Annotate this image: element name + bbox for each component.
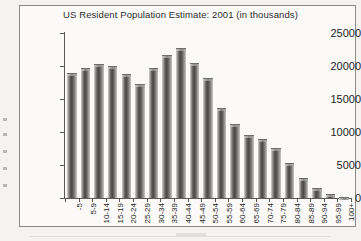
- bar-slot: [244, 33, 254, 198]
- x-axis-tick-label: 15-19: [116, 203, 125, 223]
- bar: [108, 66, 118, 198]
- x-axis-tick: [174, 198, 175, 202]
- x-axis-tick: [269, 198, 270, 202]
- x-axis-tick-label: 25-29: [143, 203, 152, 223]
- bar: [176, 48, 186, 198]
- bar-slot: [108, 33, 118, 198]
- bar-slot: [149, 33, 159, 198]
- bar: [285, 163, 295, 198]
- bar: [326, 194, 336, 198]
- x-axis-tick: [256, 198, 257, 202]
- bar: [312, 188, 322, 198]
- x-axis-tick-label: 20-24: [129, 203, 138, 223]
- bar-slot: [162, 33, 172, 198]
- x-axis-tick: [351, 198, 352, 202]
- bar-slot: [122, 33, 132, 198]
- x-axis-tick-label: 55-59: [225, 203, 234, 223]
- bar: [81, 68, 91, 198]
- x-axis-tick: [92, 198, 93, 202]
- bar-slot: [339, 33, 349, 198]
- bar-slot: [217, 33, 227, 198]
- bar: [190, 63, 200, 198]
- x-axis-tick: [310, 198, 311, 202]
- chart-page: US Resident Population Estimate: 2001 (i…: [0, 0, 361, 241]
- x-axis-tick: [147, 198, 148, 202]
- x-axis-tick: [228, 198, 229, 202]
- x-axis-tick: [283, 198, 284, 202]
- bar: [217, 108, 227, 198]
- bar-slot: [203, 33, 213, 198]
- x-axis-tick: [324, 198, 325, 202]
- bar-slot: [299, 33, 309, 198]
- bar: [162, 55, 172, 198]
- bar-slot: [258, 33, 268, 198]
- bar-series: [65, 33, 351, 198]
- chart-title: US Resident Population Estimate: 2001 (i…: [0, 9, 361, 20]
- x-axis-tick: [79, 198, 80, 202]
- bar-slot: [230, 33, 240, 198]
- x-axis-tick-label: 95-99: [334, 203, 343, 223]
- x-axis-tick-label: 45-49: [198, 203, 207, 223]
- bar: [271, 148, 281, 198]
- x-axis-tick-label: 60-64: [238, 203, 247, 223]
- x-axis-tick: [106, 198, 107, 202]
- x-axis-tick-label: 65-69: [252, 203, 261, 223]
- x-axis-tick: [297, 198, 298, 202]
- bar-slot: [135, 33, 145, 198]
- scan-edge-artifact: [3, 167, 7, 170]
- x-axis-tick-label: 30-34: [157, 203, 166, 223]
- bar: [230, 124, 240, 198]
- bar: [299, 178, 309, 198]
- bar-slot: [285, 33, 295, 198]
- x-axis-tick-label: 80-84: [293, 203, 302, 223]
- x-axis-tick: [133, 198, 134, 202]
- scan-edge-artifact: [3, 184, 7, 187]
- x-axis-tick-label: 40-44: [184, 203, 193, 223]
- scan-smudge: [30, 236, 330, 237]
- bar: [339, 197, 349, 198]
- bar-slot: [176, 33, 186, 198]
- x-axis-tick-label: 85-89: [307, 203, 316, 223]
- bar-slot: [271, 33, 281, 198]
- x-axis-tick: [65, 198, 66, 202]
- x-axis-tick-label: 90-94: [320, 203, 329, 223]
- x-axis-tick-label: 75-79: [279, 203, 288, 223]
- bar: [67, 73, 77, 198]
- bar: [135, 84, 145, 198]
- bar-slot: [312, 33, 322, 198]
- x-axis-tick-label: 100+: [347, 203, 356, 221]
- x-axis-tick: [188, 198, 189, 202]
- x-axis-tick: [337, 198, 338, 202]
- x-axis-tick-label: 10-14: [102, 203, 111, 223]
- bar-slot: [190, 33, 200, 198]
- bar: [203, 78, 213, 198]
- x-axis-tick: [215, 198, 216, 202]
- bar-slot: [81, 33, 91, 198]
- x-axis-tick: [201, 198, 202, 202]
- x-axis-tick-label: -5: [75, 203, 84, 210]
- bar: [258, 139, 268, 198]
- bar: [149, 68, 159, 198]
- x-axis-tick: [160, 198, 161, 202]
- scan-edge-artifact: [3, 133, 7, 136]
- scan-edge-artifact: [3, 118, 7, 121]
- scan-edge-artifact: [3, 150, 7, 153]
- bar: [244, 135, 254, 198]
- bar-slot: [326, 33, 336, 198]
- x-axis-tick: [119, 198, 120, 202]
- bar: [94, 64, 104, 198]
- bar-slot: [67, 33, 77, 198]
- x-axis-tick-label: 50-54: [211, 203, 220, 223]
- x-axis-tick-label: 70-74: [266, 203, 275, 223]
- x-axis-tick-label: 35-39: [170, 203, 179, 223]
- x-axis-tick: [242, 198, 243, 202]
- bar-slot: [94, 33, 104, 198]
- bar: [122, 74, 132, 198]
- x-axis-tick-label: 5-9: [89, 203, 98, 215]
